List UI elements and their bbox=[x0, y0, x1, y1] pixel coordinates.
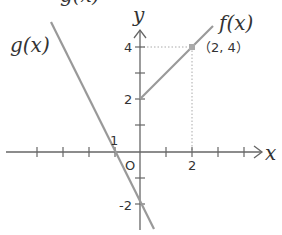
x-tick-label-2: 2 bbox=[188, 158, 196, 173]
point-marker bbox=[189, 44, 195, 50]
y-axis-label: y bbox=[132, 3, 145, 27]
cropped-top-label: g(x) bbox=[60, 0, 100, 7]
f-line bbox=[140, 26, 213, 99]
origin-label: O bbox=[125, 158, 135, 173]
x-axis-label: x bbox=[265, 141, 276, 165]
y-tick-label-2: 2 bbox=[124, 92, 132, 107]
x-axis bbox=[6, 146, 262, 158]
point-label: （2, 4） bbox=[198, 40, 249, 55]
function-graph: g(x) g(x) f(x) y x （2, 4） 4 2 -2 2 bbox=[0, 0, 282, 235]
intercept-label-1: 1 bbox=[110, 133, 118, 148]
y-tick-label-neg2: -2 bbox=[119, 198, 132, 213]
y-tick-label-4: 4 bbox=[124, 40, 132, 55]
g-label: g(x) bbox=[10, 33, 50, 57]
f-label: f(x) bbox=[217, 11, 253, 35]
